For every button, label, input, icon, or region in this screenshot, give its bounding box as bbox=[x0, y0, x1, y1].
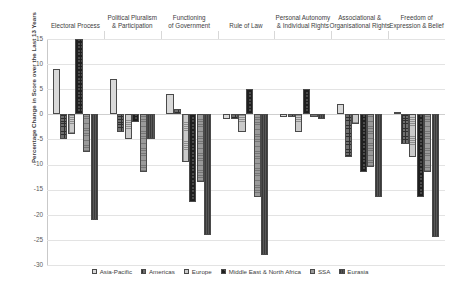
bar bbox=[60, 114, 67, 139]
bar bbox=[174, 109, 181, 114]
legend-label: Americas bbox=[149, 268, 175, 275]
bar bbox=[318, 114, 325, 119]
y-axis-tick-label: 5 bbox=[19, 86, 43, 92]
bar bbox=[295, 114, 302, 132]
y-axis-tick-label: -5 bbox=[19, 136, 43, 142]
bar bbox=[147, 114, 154, 139]
legend-item[interactable]: Europe bbox=[184, 268, 212, 275]
legend-item[interactable]: Eurasia bbox=[339, 268, 368, 275]
bar bbox=[345, 114, 352, 157]
bar bbox=[223, 114, 230, 119]
bar bbox=[409, 114, 416, 157]
plot-area: 151050-5-10-15-20-25-30 bbox=[47, 39, 445, 265]
y-axis-tick-label: 0 bbox=[19, 111, 43, 117]
category-separator bbox=[388, 31, 389, 39]
legend-swatch-icon bbox=[184, 269, 190, 275]
legend-swatch-icon bbox=[221, 269, 227, 275]
legend-label: Europe bbox=[192, 268, 212, 275]
gridline bbox=[47, 190, 445, 191]
gridline bbox=[47, 265, 445, 266]
y-axis-tick-label: -10 bbox=[19, 161, 43, 167]
category-separator bbox=[218, 31, 219, 39]
category-separator bbox=[331, 31, 332, 39]
gridline bbox=[47, 64, 445, 65]
bar bbox=[375, 114, 382, 197]
category-label: Freedom ofExpression & Belief bbox=[382, 14, 451, 31]
legend-item[interactable]: Middle East & North Africa bbox=[221, 268, 301, 275]
legend-label: Middle East & North Africa bbox=[229, 268, 301, 275]
bar bbox=[367, 114, 374, 167]
category-separator bbox=[161, 31, 162, 39]
legend-label: Eurasia bbox=[347, 268, 368, 275]
bar bbox=[246, 89, 253, 114]
bar bbox=[337, 104, 344, 114]
bar bbox=[352, 114, 359, 124]
legend-swatch-icon bbox=[141, 269, 147, 275]
gridline bbox=[47, 165, 445, 166]
legend-item[interactable]: SSA bbox=[310, 268, 330, 275]
y-axis-tick-label: 15 bbox=[19, 36, 43, 42]
legend-item[interactable]: Americas bbox=[141, 268, 175, 275]
bar bbox=[132, 114, 139, 122]
y-axis-tick-label: -25 bbox=[19, 237, 43, 243]
bar bbox=[204, 114, 211, 235]
bar bbox=[231, 114, 238, 119]
legend-swatch-icon bbox=[92, 269, 98, 275]
y-axis-tick-label: -15 bbox=[19, 186, 43, 192]
legend-item[interactable]: Asia-Pacific bbox=[92, 268, 132, 275]
bar bbox=[140, 114, 147, 172]
legend-label: SSA bbox=[318, 268, 330, 275]
bar bbox=[117, 114, 124, 132]
y-axis-line bbox=[47, 39, 48, 265]
bar bbox=[182, 114, 189, 162]
category-separator bbox=[104, 31, 105, 39]
bar bbox=[288, 114, 295, 117]
gridline bbox=[47, 114, 445, 115]
y-axis-tick-label: 10 bbox=[19, 61, 43, 67]
bar bbox=[110, 79, 117, 114]
category-separator bbox=[274, 31, 275, 39]
bar bbox=[125, 114, 132, 139]
bar bbox=[261, 114, 268, 255]
bar bbox=[238, 114, 245, 132]
y-axis-tick-label: -20 bbox=[19, 212, 43, 218]
bar bbox=[83, 114, 90, 152]
bar bbox=[91, 114, 98, 219]
bar bbox=[254, 114, 261, 197]
bar bbox=[189, 114, 196, 202]
bar-chart: Percentage Change in Score over the Last… bbox=[0, 0, 460, 297]
gridline bbox=[47, 215, 445, 216]
bar bbox=[166, 94, 173, 114]
legend-label: Asia-Pacific bbox=[100, 268, 132, 275]
gridline bbox=[47, 39, 445, 40]
chart-legend: Asia-PacificAmericasEuropeMiddle East & … bbox=[0, 268, 460, 275]
legend-swatch-icon bbox=[310, 269, 316, 275]
bar bbox=[310, 114, 317, 117]
gridline bbox=[47, 139, 445, 140]
bar bbox=[417, 114, 424, 197]
bar bbox=[197, 114, 204, 182]
legend-swatch-icon bbox=[339, 269, 345, 275]
bar bbox=[53, 69, 60, 114]
bar bbox=[360, 114, 367, 172]
bar bbox=[432, 114, 439, 237]
bar bbox=[68, 114, 75, 134]
gridline bbox=[47, 240, 445, 241]
bar bbox=[303, 89, 310, 114]
bar bbox=[75, 39, 82, 114]
bar bbox=[401, 114, 408, 144]
bar bbox=[280, 114, 287, 117]
bar bbox=[394, 112, 401, 115]
bar bbox=[424, 114, 431, 172]
